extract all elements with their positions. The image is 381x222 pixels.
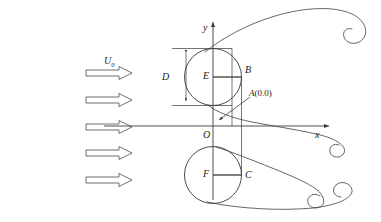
point-a-label: A(0.0) (249, 89, 272, 98)
diagram-canvas (0, 0, 381, 222)
lower-center-label: F (203, 169, 209, 179)
upper-center-label: E (203, 71, 209, 81)
y-axis-label: y (203, 23, 207, 33)
inflow-arrow (86, 174, 132, 187)
wake-vortex-sheets (205, 9, 366, 210)
inflow-arrow (86, 94, 132, 107)
flow-diagram-figure: U0 D y x O E B F C A(0.0) (0, 0, 381, 222)
upper-right-point-label: B (245, 65, 251, 75)
inflow-velocity-label: U0 (104, 56, 114, 69)
inflow-arrow-group (86, 67, 132, 187)
point-a-leader (219, 97, 250, 120)
origin-label: O (203, 130, 210, 140)
x-axis-label: x (315, 130, 319, 140)
upper-shear-layer (205, 9, 366, 52)
diameter-label: D (162, 72, 169, 82)
lower-shear-layer-lower (207, 183, 352, 210)
lower-right-point-label: C (245, 170, 252, 180)
lower-shear-layer-upper (216, 147, 324, 208)
inflow-arrow (86, 147, 132, 160)
inflow-arrow (86, 121, 132, 134)
